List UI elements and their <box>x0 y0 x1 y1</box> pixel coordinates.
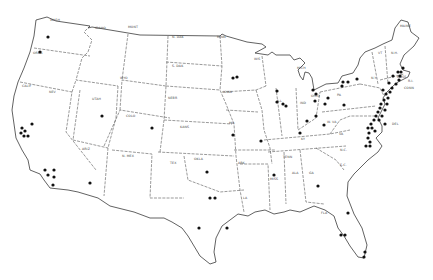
site-marker-dot <box>235 75 238 78</box>
state-label: MAINE <box>400 24 411 28</box>
state-label: NEBR <box>168 96 178 100</box>
site-marker-dot <box>369 122 372 125</box>
state-label: WASH <box>50 18 60 22</box>
state-label: GA <box>309 171 315 175</box>
site-marker-dot <box>22 134 25 137</box>
site-marker-dot <box>231 76 234 79</box>
site-marker-dot <box>379 102 382 105</box>
site-marker-dot <box>275 100 278 103</box>
site-marker-dot <box>385 102 388 105</box>
site-marker-dot <box>275 89 278 92</box>
site-marker-dot <box>396 70 399 73</box>
state-label: KY <box>301 137 305 141</box>
site-marker-dot <box>380 114 383 117</box>
us-map: WASHOREGIDAHOMONTWYONEVCALIFUTAHCOLOARIZ… <box>0 0 433 280</box>
state-label: NEV <box>49 90 57 94</box>
state-label: N. DAK <box>172 35 184 39</box>
site-marker-dot <box>208 196 211 199</box>
state-label: DEL <box>392 122 399 126</box>
state-label: ALA <box>292 171 299 175</box>
site-marker-dot <box>150 126 153 129</box>
state-label: IND <box>300 101 307 105</box>
state-label: CALIF <box>22 84 32 88</box>
state-label: ARIZ <box>82 147 91 151</box>
site-marker-dot <box>88 181 91 184</box>
site-marker-dot <box>305 119 308 122</box>
state-label: COLO <box>126 114 136 118</box>
site-marker-dot <box>401 66 404 69</box>
state-label: MISS <box>270 177 278 181</box>
site-marker-dot <box>342 103 345 106</box>
state-labels: WASHOREGIDAHOMONTWYONEVCALIFUTAHCOLOARIZ… <box>22 18 414 215</box>
site-marker-dot <box>364 144 367 147</box>
site-marker-dot <box>355 77 358 80</box>
site-marker-dot <box>259 139 262 142</box>
state-label: PA <box>337 93 342 97</box>
state-label: MONT <box>128 25 138 29</box>
state-label: CONN <box>404 86 414 90</box>
site-marker-dot <box>386 96 389 99</box>
state-label: UTAH <box>92 97 102 101</box>
state-label: TEX <box>169 161 177 165</box>
site-marker-dot <box>316 184 319 187</box>
us-outline <box>12 17 419 264</box>
state-label: MINN <box>217 35 226 39</box>
site-marker-dot <box>366 126 369 129</box>
site-marker-dot <box>52 175 55 178</box>
site-marker-dot <box>213 196 216 199</box>
site-marker-dot <box>390 86 393 89</box>
site-marker-dot <box>376 110 379 113</box>
state-label: N.Y. <box>371 76 377 80</box>
site-marker-dot <box>398 74 401 77</box>
site-marker-dot <box>281 102 284 105</box>
site-marker-dot <box>362 255 365 258</box>
state-label: OKLA <box>194 157 204 161</box>
state-label: N. MEX <box>122 154 135 158</box>
state-label: R.I. <box>408 79 413 83</box>
site-marker-dot <box>368 140 371 143</box>
state-borders <box>20 26 404 212</box>
state-label: VA <box>339 132 344 136</box>
site-marker-dot <box>51 183 54 186</box>
site-marker-dot <box>20 126 23 129</box>
site-marker-dot <box>387 81 390 84</box>
site-marker-dot <box>394 82 397 85</box>
site-marker-dot <box>346 211 349 214</box>
site-marker-dot <box>225 226 228 229</box>
site-markers <box>19 35 404 258</box>
site-marker-dot <box>374 114 377 117</box>
site-marker-dot <box>272 173 275 176</box>
site-marker-dot <box>377 118 380 121</box>
site-marker-dot <box>205 170 208 173</box>
state-label: ARK <box>238 161 246 165</box>
site-marker-dot <box>381 88 384 91</box>
site-marker-dot <box>23 129 26 132</box>
site-marker-dot <box>314 114 317 117</box>
state-label: IOWA <box>223 90 233 94</box>
state-label: VT <box>378 51 382 55</box>
state-label: LA <box>243 196 248 200</box>
state-label: KANS <box>180 125 189 129</box>
site-marker-dot <box>323 102 326 105</box>
site-marker-dot <box>26 134 29 137</box>
site-marker-dot <box>314 92 317 95</box>
site-marker-dot <box>197 226 200 229</box>
site-marker-dot <box>231 133 234 136</box>
site-marker-dot <box>384 92 387 95</box>
site-marker-dot <box>284 104 287 107</box>
site-marker-dot <box>399 70 402 73</box>
state-label: N.C. <box>340 148 347 152</box>
state-label: WYO <box>120 76 128 80</box>
state-label: FLA <box>321 211 328 215</box>
site-marker-dot <box>382 98 385 101</box>
site-marker-dot <box>46 173 49 176</box>
state-label: TENN <box>282 155 293 159</box>
site-marker-dot <box>383 122 386 125</box>
site-marker-dot <box>370 126 373 129</box>
site-marker-dot <box>363 250 366 253</box>
site-marker-dot <box>19 131 22 134</box>
site-marker-dot <box>383 108 386 111</box>
site-marker-dot <box>38 50 41 53</box>
site-marker-dot <box>46 35 49 38</box>
state-label: MO <box>229 121 235 125</box>
